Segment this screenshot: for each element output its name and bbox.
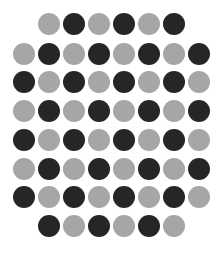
gray-circle — [138, 13, 160, 35]
dark-circle — [38, 215, 60, 237]
gray-circle — [188, 129, 210, 151]
dark-circle — [63, 71, 85, 93]
gray-circle — [163, 100, 185, 122]
dark-circle — [163, 129, 185, 151]
gray-circle — [13, 100, 35, 122]
dot-pattern-grid — [0, 0, 222, 253]
gray-circle — [138, 129, 160, 151]
dark-circle — [38, 100, 60, 122]
gray-circle — [138, 71, 160, 93]
dark-circle — [113, 186, 135, 208]
dark-circle — [138, 100, 160, 122]
gray-circle — [188, 71, 210, 93]
dark-circle — [138, 158, 160, 180]
dark-circle — [163, 71, 185, 93]
gray-circle — [88, 186, 110, 208]
gray-circle — [13, 43, 35, 65]
dark-circle — [63, 13, 85, 35]
dark-circle — [63, 186, 85, 208]
gray-circle — [13, 158, 35, 180]
gray-circle — [88, 71, 110, 93]
dark-circle — [188, 100, 210, 122]
dark-circle — [163, 186, 185, 208]
gray-circle — [163, 158, 185, 180]
gray-circle — [38, 13, 60, 35]
gray-circle — [63, 100, 85, 122]
dark-circle — [13, 71, 35, 93]
dark-circle — [88, 43, 110, 65]
dark-circle — [88, 100, 110, 122]
gray-circle — [113, 43, 135, 65]
gray-circle — [38, 71, 60, 93]
dark-circle — [38, 158, 60, 180]
gray-circle — [138, 186, 160, 208]
gray-circle — [163, 215, 185, 237]
gray-circle — [38, 129, 60, 151]
dark-circle — [188, 43, 210, 65]
dark-circle — [163, 13, 185, 35]
dark-circle — [138, 43, 160, 65]
gray-circle — [113, 100, 135, 122]
dark-circle — [113, 71, 135, 93]
dark-circle — [38, 43, 60, 65]
gray-circle — [63, 215, 85, 237]
dark-circle — [188, 158, 210, 180]
dark-circle — [113, 13, 135, 35]
gray-circle — [88, 129, 110, 151]
dark-circle — [88, 215, 110, 237]
dark-circle — [13, 129, 35, 151]
gray-circle — [88, 13, 110, 35]
dark-circle — [63, 129, 85, 151]
dark-circle — [113, 129, 135, 151]
gray-circle — [163, 43, 185, 65]
dark-circle — [88, 158, 110, 180]
gray-circle — [38, 186, 60, 208]
gray-circle — [113, 215, 135, 237]
dark-circle — [13, 186, 35, 208]
dark-circle — [138, 215, 160, 237]
gray-circle — [63, 158, 85, 180]
gray-circle — [63, 43, 85, 65]
gray-circle — [113, 158, 135, 180]
gray-circle — [188, 186, 210, 208]
